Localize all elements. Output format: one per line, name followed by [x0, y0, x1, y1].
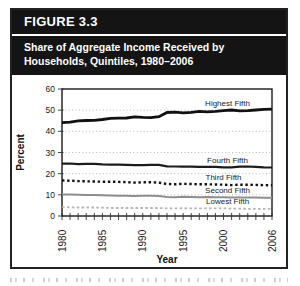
svg-text:2000: 2000: [218, 230, 229, 253]
figure-header: FIGURE 3.3 Share of Aggregate Income Rec…: [12, 10, 286, 75]
svg-text:50: 50: [46, 105, 56, 115]
figure-number: FIGURE 3.3: [12, 10, 286, 34]
svg-text:40: 40: [46, 127, 56, 137]
svg-text:0: 0: [50, 211, 55, 221]
figure-3-3: FIGURE 3.3 Share of Aggregate Income Rec…: [10, 8, 288, 269]
svg-text:Year: Year: [156, 254, 177, 265]
svg-text:2006: 2006: [267, 230, 278, 253]
svg-text:1990: 1990: [137, 230, 148, 253]
figure-title: Share of Aggregate Income Received by Ho…: [12, 36, 286, 75]
figure-title-line1: Share of Aggregate Income Received by: [24, 41, 274, 55]
svg-text:20: 20: [46, 169, 56, 179]
svg-text:Fourth Fifth: Fourth Fifth: [207, 156, 248, 165]
svg-text:Second Fifth: Second Fifth: [205, 186, 250, 195]
svg-text:1980: 1980: [57, 230, 68, 253]
svg-text:Third Fifth: Third Fifth: [206, 173, 242, 182]
chart-svg: 0102030405060198019851990199520002006Hig…: [12, 75, 286, 267]
svg-text:1995: 1995: [178, 230, 189, 253]
svg-text:Lowest Fifth: Lowest Fifth: [206, 197, 249, 206]
figure-title-line2: Households, Quintiles, 1980–2006: [24, 55, 274, 69]
svg-text:1985: 1985: [97, 230, 108, 253]
cut-off-caption-text: [10, 278, 288, 282]
svg-text:Percent: Percent: [15, 134, 26, 171]
svg-text:10: 10: [46, 190, 56, 200]
svg-text:Highest Fifth: Highest Fifth: [205, 100, 250, 109]
svg-text:30: 30: [46, 148, 56, 158]
chart-panel: 0102030405060198019851990199520002006Hig…: [12, 75, 286, 267]
svg-text:60: 60: [46, 84, 56, 94]
